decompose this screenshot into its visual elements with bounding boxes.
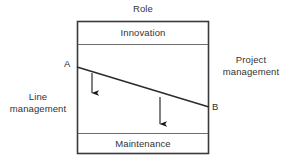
role-diagram: Role Innovation Maintenance Line managem… bbox=[0, 0, 288, 163]
band-label-innovation: Innovation bbox=[78, 27, 208, 39]
point-label-a: A bbox=[64, 58, 70, 69]
band-label-maintenance: Maintenance bbox=[78, 138, 208, 150]
role-title: Role bbox=[78, 3, 208, 15]
left-axis-label-line-management: Line management bbox=[2, 91, 74, 114]
point-label-b: B bbox=[212, 101, 218, 112]
right-axis-label-project-management: Project management bbox=[214, 54, 288, 77]
